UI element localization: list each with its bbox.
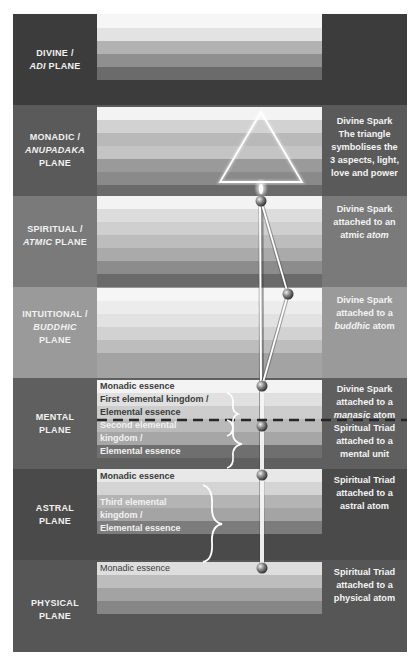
- plane-label-divine: DIVINE / ADI PLANE: [13, 15, 97, 105]
- desc-line: attached to a: [336, 397, 393, 407]
- plane-label-physical: PHYSICAL PLANE: [13, 564, 97, 656]
- desc-line: Spiritual Triad: [334, 475, 395, 485]
- desc-line: Divine Spark: [337, 204, 393, 214]
- desc-plain: atom: [371, 410, 396, 420]
- band-label: kingdom /: [100, 433, 143, 443]
- subplane-bands-mental: Monadic essence First elemental kingdom …: [97, 378, 322, 469]
- band-label: Second elemental: [100, 420, 177, 430]
- description-astral: Spiritual Triad attached to a astral ato…: [322, 469, 407, 560]
- description-physical: Spiritual Triad attached to a physical a…: [322, 560, 407, 652]
- band-label: Elemental essence: [100, 523, 181, 533]
- subplane-bands-spiritual: [97, 196, 322, 287]
- planes-diagram: DIVINE / ADI PLANE MONADIC / ANUPADAKA P…: [13, 14, 407, 652]
- band-label: Elemental essence: [100, 446, 181, 456]
- label-rest: PLANE: [39, 516, 71, 526]
- desc-line: Spiritual Triad: [334, 423, 395, 433]
- plane-physical: PHYSICAL PLANE Monadic essence Spiritual…: [13, 560, 407, 652]
- plane-label-intuitional: INTUITIONAL / BUDDHIC PLANE: [13, 287, 97, 367]
- subplane-bands-divine: [97, 14, 322, 105]
- desc-line: attached to a: [336, 488, 393, 498]
- label-line: DIVINE /: [36, 48, 73, 58]
- label-line: INTUITIONAL /: [22, 309, 88, 319]
- desc-line: The triangle: [338, 129, 390, 139]
- desc-plain: atom: [370, 321, 395, 331]
- label-italic: ATMIC: [23, 237, 52, 247]
- subplane-bands-monadic: [97, 105, 322, 196]
- band-label: Third elemental: [100, 497, 167, 507]
- plane-label-mental: MENTAL PLANE: [13, 378, 97, 469]
- label-rest: PLANE: [52, 237, 87, 247]
- desc-line: attached to a: [336, 580, 393, 590]
- band-label: Elemental essence: [100, 407, 181, 417]
- plane-label-spiritual: SPIRITUAL / ATMIC PLANE: [13, 196, 97, 276]
- label-line: PHYSICAL: [31, 598, 79, 608]
- desc-plain: atmic: [340, 230, 367, 240]
- label-rest: PLANE: [39, 158, 71, 168]
- desc-line: Divine Spark: [337, 295, 393, 305]
- label-italic: ADI: [29, 61, 45, 71]
- band-label: Monadic essence: [100, 471, 175, 481]
- desc-line: Divine Spark: [337, 384, 393, 394]
- plane-label-astral: ASTRAL PLANE: [13, 469, 97, 560]
- plane-divine: DIVINE / ADI PLANE: [13, 14, 407, 105]
- desc-line: love and power: [331, 168, 398, 178]
- desc-italic: atom: [367, 230, 389, 240]
- desc-line: Spiritual Triad: [334, 567, 395, 577]
- subplane-bands-astral: Monadic essence Third elemental kingdom …: [97, 469, 322, 560]
- label-line: ASTRAL: [36, 503, 74, 513]
- band-label: First elemental kingdom /: [100, 394, 209, 404]
- description-mental: Divine Spark attached to a manasic atom …: [322, 378, 407, 469]
- label-line: SPIRITUAL /: [27, 224, 83, 234]
- label-rest: PLANE: [39, 611, 71, 621]
- desc-italic: buddhic: [334, 321, 370, 331]
- label-italic: BUDDHIC: [33, 322, 77, 332]
- plane-mental: MENTAL PLANE Monadic essence First eleme…: [13, 378, 407, 469]
- plane-intuitional: INTUITIONAL / BUDDHIC PLANE Divine Spark…: [13, 287, 407, 378]
- description-monadic: Divine Spark The triangle symbolises the…: [322, 105, 407, 196]
- label-rest: PLANE: [46, 61, 81, 71]
- band-label: Monadic essence: [100, 563, 170, 573]
- plane-astral: ASTRAL PLANE Monadic essence Third eleme…: [13, 469, 407, 560]
- desc-line: attached to a: [336, 308, 393, 318]
- desc-italic: manasic: [334, 410, 371, 420]
- description-spiritual: Divine Spark attached to an atmic atom: [322, 196, 407, 287]
- description-divine: [322, 14, 407, 105]
- label-rest: PLANE: [39, 425, 71, 435]
- description-intuitional: Divine Spark attached to a buddhic atom: [322, 287, 407, 378]
- desc-line: Divine Spark: [337, 116, 393, 126]
- desc-line: physical atom: [334, 593, 395, 603]
- plane-label-monadic: MONADIC / ANUPADAKA PLANE: [13, 105, 97, 196]
- plane-monadic: MONADIC / ANUPADAKA PLANE Divine Spark T…: [13, 105, 407, 196]
- desc-line: mental unit: [340, 449, 389, 459]
- band-label: Monadic essence: [100, 381, 175, 391]
- desc-line: astral atom: [340, 501, 389, 511]
- desc-line: attached to an: [333, 217, 395, 227]
- subplane-bands-physical: Monadic essence: [97, 560, 322, 652]
- band-label: kingdom /: [100, 510, 143, 520]
- desc-line: symbolises the: [331, 142, 397, 152]
- label-line: MENTAL: [36, 412, 75, 422]
- subplane-bands-intuitional: [97, 287, 322, 378]
- desc-line: attached to a: [336, 436, 393, 446]
- label-rest: PLANE: [39, 335, 71, 345]
- label-line: MONADIC /: [30, 132, 81, 142]
- label-italic: ANUPADAKA: [25, 145, 85, 155]
- desc-line: 3 aspects, light,: [330, 155, 399, 165]
- plane-spiritual: SPIRITUAL / ATMIC PLANE Divine Spark att…: [13, 196, 407, 287]
